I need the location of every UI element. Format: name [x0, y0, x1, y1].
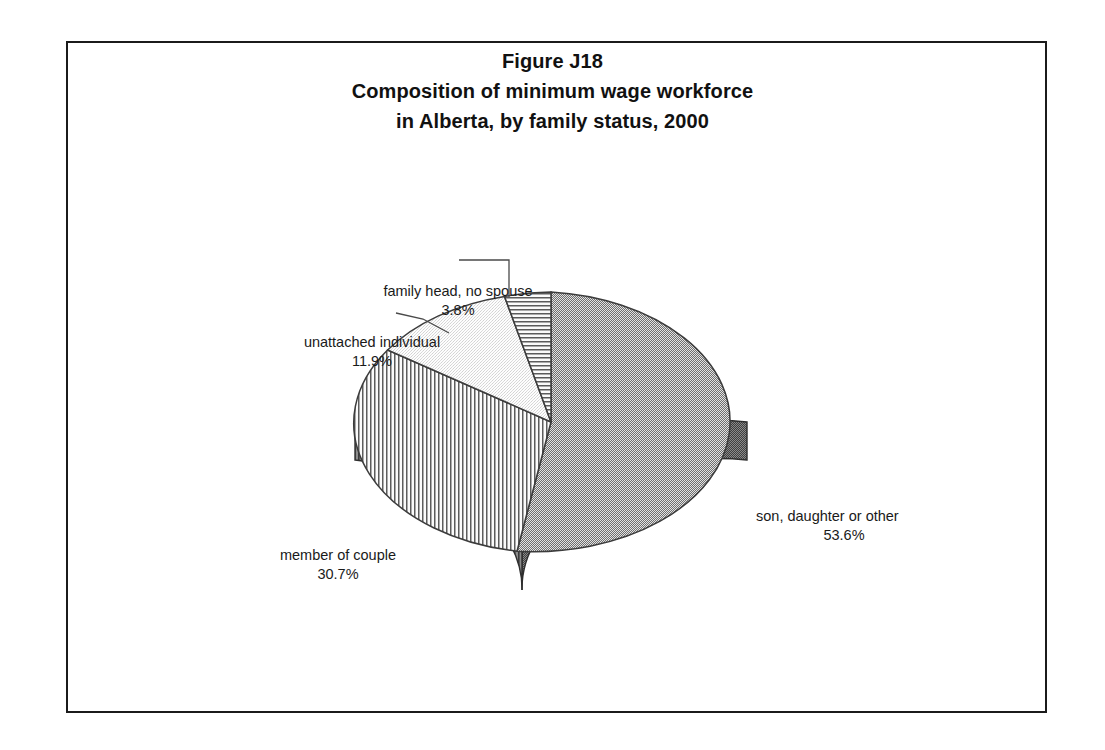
label-unattached-value: 11.9%	[272, 352, 472, 371]
pie-chart-svg	[66, 41, 1047, 713]
pie-chart: family head, no spouse 3.8% unattached i…	[66, 41, 1047, 713]
label-member-of-couple: member of couple 30.7%	[238, 546, 438, 584]
label-family-head: family head, no spouse 3.8%	[358, 282, 558, 320]
label-son-daughter-or-other: son, daughter or other 53.6%	[756, 507, 986, 545]
label-son-daughter-name: son, daughter or other	[756, 507, 986, 526]
label-unattached-individual: unattached individual 11.9%	[272, 333, 472, 371]
label-son-daughter-value: 53.6%	[756, 526, 932, 545]
label-family-head-name: family head, no spouse	[358, 282, 558, 301]
label-member-couple-name: member of couple	[238, 546, 438, 565]
label-unattached-name: unattached individual	[272, 333, 472, 352]
label-member-couple-value: 30.7%	[238, 565, 438, 584]
figure-page: Figure J18 Composition of minimum wage w…	[0, 0, 1105, 750]
pie-top-faces	[354, 292, 730, 552]
label-family-head-value: 3.8%	[358, 301, 558, 320]
